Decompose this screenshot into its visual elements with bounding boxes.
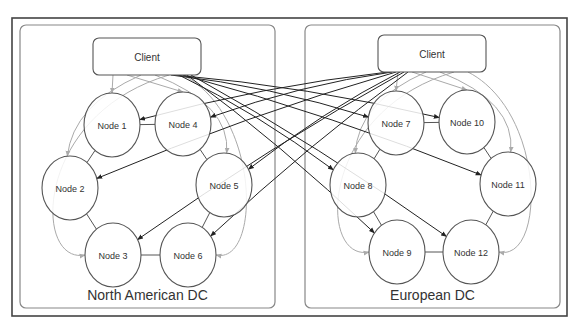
node-label: Node 11 [491, 180, 524, 190]
client-box-na[interactable]: Client [93, 38, 201, 75]
node-n6[interactable]: Node 6 [160, 223, 216, 287]
ring-edge [374, 149, 380, 159]
node-label: Node 3 [98, 251, 127, 261]
node-label: Node 6 [173, 251, 202, 261]
ring-edge [202, 213, 210, 228]
node-label: Node 8 [343, 181, 372, 191]
datacenter-label: North American DC [87, 287, 208, 303]
ring-edge [87, 150, 95, 162]
node-n12[interactable]: Node 12 [443, 220, 499, 284]
node-n10[interactable]: Node 10 [439, 90, 495, 154]
ring-edge [200, 149, 207, 159]
ring-edge [87, 214, 97, 229]
node-label: Node 5 [209, 181, 238, 191]
datacenter-label: European DC [390, 287, 475, 303]
node-n8[interactable]: Node 8 [330, 153, 386, 217]
node-n2[interactable]: Node 2 [42, 156, 98, 220]
node-label: Node 9 [382, 248, 411, 258]
node-n4[interactable]: Node 4 [155, 92, 211, 156]
node-label: Node 1 [97, 121, 126, 131]
client-label: Client [134, 52, 160, 63]
ring-edge [374, 212, 382, 226]
node-label: Node 10 [450, 118, 484, 128]
ring-edge [484, 148, 491, 159]
node-n9[interactable]: Node 9 [369, 220, 425, 284]
node-label: Node 12 [454, 248, 488, 258]
ring-edge [486, 211, 493, 225]
replication-diagram: North American DCEuropean DC Node 1Node … [0, 0, 579, 331]
client-box-eu[interactable]: Client [378, 35, 486, 72]
node-n1[interactable]: Node 1 [84, 93, 140, 157]
node-n5[interactable]: Node 5 [196, 153, 252, 217]
client-label: Client [419, 49, 445, 60]
node-n11[interactable]: Node 11 [480, 152, 536, 216]
node-n3[interactable]: Node 3 [85, 223, 141, 287]
node-n7[interactable]: Node 7 [368, 91, 424, 155]
node-label: Node 4 [168, 120, 197, 130]
node-label: Node 7 [381, 119, 410, 129]
node-label: Node 2 [55, 184, 84, 194]
